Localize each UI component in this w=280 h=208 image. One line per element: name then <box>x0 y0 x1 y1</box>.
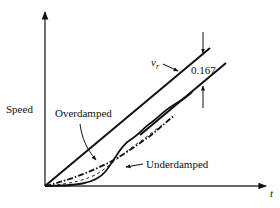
overdamped-label: Overdamped <box>55 107 112 119</box>
reference-label: vr <box>151 56 160 71</box>
lag-value-label: 0.167 <box>191 64 216 76</box>
reference-pointer-arrow <box>163 64 178 71</box>
y-axis-label: Speed <box>6 103 33 115</box>
underdamped-label: Underdamped <box>146 158 209 170</box>
speed-response-diagram: Speed t vr 0.167 Overdamped Underdamped <box>0 0 280 208</box>
critically-damped-curve <box>45 125 162 186</box>
underdamped-pointer-arrow <box>126 164 143 167</box>
overdamped-curve <box>45 115 175 186</box>
reference-label-subscript: r <box>156 62 160 71</box>
x-axis-label: t <box>270 187 274 199</box>
